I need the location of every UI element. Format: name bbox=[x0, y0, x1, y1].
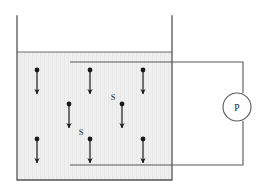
pressure-meter-label: P bbox=[234, 103, 239, 113]
figure-root: P S bbox=[0, 0, 268, 191]
liquid-fill bbox=[18, 52, 172, 180]
cell-diagram-svg: P S bbox=[0, 0, 268, 191]
particle-label-s: S bbox=[79, 127, 84, 137]
particle-label-s: S bbox=[111, 92, 116, 102]
